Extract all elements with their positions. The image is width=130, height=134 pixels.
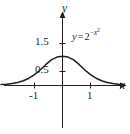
equation-exponent: −x2 xyxy=(90,29,100,37)
y-axis-label: y xyxy=(62,3,67,15)
x-axis-label: x xyxy=(120,80,125,92)
equation-lhs: y xyxy=(72,31,77,42)
function-equation-label: y=2−x2 xyxy=(72,30,100,42)
x-tick-label-minus-1: -1 xyxy=(29,90,38,101)
x-tick-label-1: 1 xyxy=(87,90,93,101)
equation-exponent-power: 2 xyxy=(97,27,100,33)
y-tick-label-1-5: 1.5 xyxy=(35,36,49,47)
y-tick-label-0-5: 0.5 xyxy=(35,64,49,75)
equation-operator: = xyxy=(77,31,85,42)
function-plot-figure: y x 1.5 0.5 -1 1 y=2−x2 xyxy=(0,0,130,134)
plot-canvas xyxy=(0,0,130,134)
